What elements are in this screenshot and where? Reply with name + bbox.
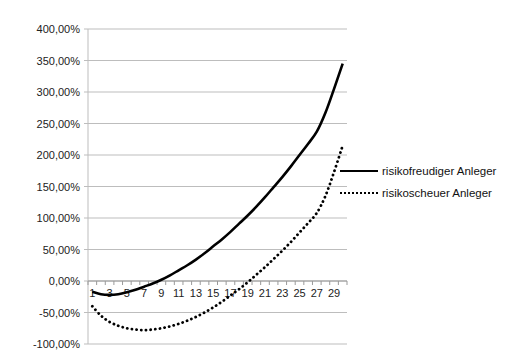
x-tick-label: 21 xyxy=(259,287,271,299)
y-tick-label: 50,00% xyxy=(43,244,81,256)
legend: risikofreudiger Anleger risikoscheuer An… xyxy=(340,160,496,204)
y-tick-label: 400,00% xyxy=(37,23,81,35)
x-tick-label: 27 xyxy=(311,287,323,299)
legend-item-risikofreudig: risikofreudiger Anleger xyxy=(340,160,496,182)
solid-line-icon xyxy=(340,170,378,172)
x-tick-label: 23 xyxy=(276,287,288,299)
y-tick-label: 150,00% xyxy=(37,181,81,193)
y-tick-label: -100,00% xyxy=(33,338,80,350)
y-tick-label: 350,00% xyxy=(37,55,81,67)
y-tick-label: 100,00% xyxy=(37,212,81,224)
x-tick-label: 19 xyxy=(242,287,254,299)
x-tick-label: 25 xyxy=(293,287,305,299)
x-tick-label: 3 xyxy=(107,287,113,299)
x-tick-label: 29 xyxy=(328,287,340,299)
x-axis: 1357911131517192123252729 xyxy=(88,281,347,299)
x-tick-label: 11 xyxy=(173,287,184,299)
y-axis: 400,00%350,00%300,00%250,00%200,00%150,0… xyxy=(33,23,80,350)
y-tick-label: 300,00% xyxy=(37,86,81,98)
x-tick-label: 15 xyxy=(207,287,219,299)
y-tick-label: 0,00% xyxy=(49,275,80,287)
legend-item-risikoscheu: risikoscheuer Anleger xyxy=(340,182,496,204)
legend-label: risikoscheuer Anleger xyxy=(382,187,492,199)
series-risikofreudig-line xyxy=(92,64,342,295)
series-risikoscheu-line xyxy=(92,146,342,331)
legend-label: risikofreudiger Anleger xyxy=(382,165,496,177)
y-tick-label: 250,00% xyxy=(37,118,81,130)
y-tick-label: -50,00% xyxy=(39,307,80,319)
x-tick-label: 9 xyxy=(158,287,164,299)
x-tick-label: 13 xyxy=(190,287,202,299)
dotted-line-icon xyxy=(340,192,378,194)
y-tick-label: 200,00% xyxy=(37,149,81,161)
